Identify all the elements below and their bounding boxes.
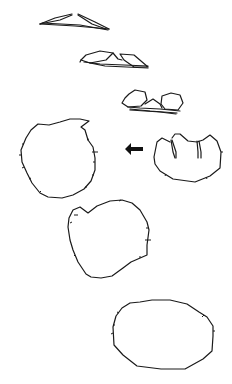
stage-2-shape xyxy=(80,51,148,68)
stage-5-shape xyxy=(19,119,98,198)
stage-4-shape xyxy=(154,134,223,182)
stage-3-shape xyxy=(122,90,183,114)
stage-1-shape xyxy=(40,14,109,30)
stage-6-shape xyxy=(68,200,151,278)
stage-7-shape xyxy=(111,300,215,369)
left-arrow-icon xyxy=(125,143,143,155)
diagram-canvas xyxy=(0,0,232,384)
